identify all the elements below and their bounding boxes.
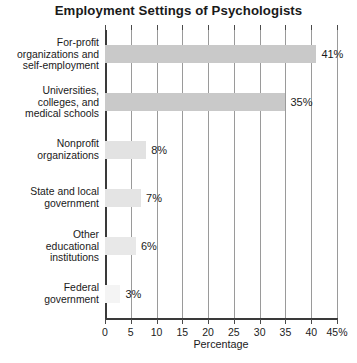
x-tick-top <box>131 25 132 30</box>
bar-value-label: 35% <box>290 96 312 108</box>
x-tick-top <box>311 25 312 30</box>
gridline <box>337 30 338 318</box>
x-tick-label: 20 <box>202 326 214 338</box>
x-tick-label: 15 <box>176 326 188 338</box>
bar-value-label: 41% <box>321 48 343 60</box>
x-tick-label: 25 <box>228 326 240 338</box>
x-tick-bottom <box>260 319 261 324</box>
x-tick-top <box>285 25 286 30</box>
category-label-line: Other <box>0 229 99 241</box>
x-tick-bottom <box>182 319 183 324</box>
category-label: Othereducationalinstitutions <box>0 229 99 264</box>
chart-title: Employment Settings of Psychologists <box>0 3 357 18</box>
x-tick-label: 30 <box>254 326 266 338</box>
x-axis-title: Percentage <box>105 338 337 350</box>
category-label-line: Nonprofit <box>0 138 99 150</box>
x-tick-top <box>157 25 158 30</box>
y-axis-line <box>105 30 107 318</box>
category-label-line: State and local <box>0 186 99 198</box>
bar-value-label: 3% <box>125 288 141 300</box>
gridline <box>234 30 235 318</box>
gridline <box>285 30 286 318</box>
x-tick-top <box>234 25 235 30</box>
x-tick-bottom <box>311 319 312 324</box>
bar <box>105 141 146 159</box>
category-label-line: colleges, and <box>0 96 99 108</box>
chart-figure: Employment Settings of Psychologists 41%… <box>0 0 357 363</box>
category-label-line: self-employment <box>0 60 99 72</box>
category-label-line: medical schools <box>0 108 99 120</box>
x-tick-label: 45% <box>326 326 347 338</box>
bar-value-label: 8% <box>151 144 167 156</box>
x-tick-top <box>105 25 106 30</box>
x-tick-label: 35 <box>280 326 292 338</box>
category-label-line: educational <box>0 240 99 252</box>
category-label: Federalgovernment <box>0 282 99 305</box>
x-tick-top <box>260 25 261 30</box>
category-label-line: government <box>0 198 99 210</box>
bar-value-label: 6% <box>141 240 157 252</box>
bar-value-label: 7% <box>146 192 162 204</box>
x-tick-bottom <box>105 319 106 324</box>
x-tick-label: 0 <box>102 326 108 338</box>
x-tick-bottom <box>208 319 209 324</box>
bar <box>105 189 141 207</box>
bar <box>105 285 120 303</box>
plot-area: 41%35%8%7%6%3% <box>105 30 337 318</box>
x-tick-bottom <box>285 319 286 324</box>
gridline <box>260 30 261 318</box>
x-tick-label: 10 <box>151 326 163 338</box>
gridline <box>182 30 183 318</box>
gridline <box>208 30 209 318</box>
category-label-line: Federal <box>0 282 99 294</box>
bar <box>105 93 285 111</box>
x-tick-label: 40 <box>305 326 317 338</box>
category-label-line: organizations <box>0 150 99 162</box>
x-tick-bottom <box>337 319 338 324</box>
gridline <box>157 30 158 318</box>
x-tick-top <box>337 25 338 30</box>
bar <box>105 237 136 255</box>
x-tick-bottom <box>157 319 158 324</box>
x-tick-bottom <box>234 319 235 324</box>
category-label-line: institutions <box>0 252 99 264</box>
x-axis-line <box>105 318 338 320</box>
category-label: Nonprofitorganizations <box>0 138 99 161</box>
category-label: State and localgovernment <box>0 186 99 209</box>
gridline <box>131 30 132 318</box>
x-tick-bottom <box>131 319 132 324</box>
gridline <box>311 30 312 318</box>
category-label-line: For-profit <box>0 37 99 49</box>
category-label-line: government <box>0 294 99 306</box>
bar <box>105 45 316 63</box>
x-tick-label: 5 <box>128 326 134 338</box>
x-tick-top <box>208 25 209 30</box>
category-label-line: organizations and <box>0 48 99 60</box>
x-tick-top <box>182 25 183 30</box>
category-label: For-profitorganizations andself-employme… <box>0 37 99 72</box>
category-label: Universities,colleges, andmedical school… <box>0 85 99 120</box>
category-label-line: Universities, <box>0 85 99 97</box>
